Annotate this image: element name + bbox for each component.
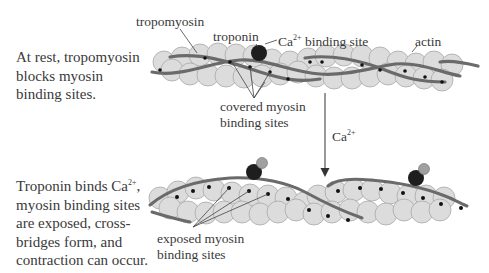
rest-description-line: At rest, tropomyosin [16,48,140,67]
binding-site-text: binding site [302,34,369,49]
active-description-line: myosin binding sites [16,196,148,215]
rest-description-line: blocks myosin [16,67,140,86]
active-description: Troponin binds Ca2+, myosin binding site… [16,177,148,270]
label-ca-binding-site: Ca2+ binding site [278,34,368,50]
covered-line: covered myosin [220,99,306,115]
ca-charge: 2+ [347,128,356,137]
ca-text: Ca [332,129,347,144]
troponin-binds-text: Troponin binds Ca [16,178,128,194]
label-troponin: troponin [213,29,259,45]
ca-charge: 2+ [293,33,302,42]
covered-line: binding sites [220,115,306,131]
calcium-ion-1 [257,158,268,169]
label-ca-arrow: Ca2+ [332,129,356,145]
active-description-line: are exposed, cross- [16,214,148,233]
exposed-line: binding sites [157,247,244,263]
rest-description-line: binding sites. [16,85,140,104]
label-covered-sites: covered myosin binding sites [220,99,306,131]
label-exposed-sites: exposed myosin binding sites [157,231,244,263]
rest-description: At rest, tropomyosin blocks myosin bindi… [16,48,140,104]
active-description-line: Troponin binds Ca2+, [16,177,148,196]
ca-arrow [321,93,330,177]
label-actin: actin [415,34,441,50]
calcium-ion-2 [419,164,430,175]
actin-filament-rest [152,43,478,91]
actin-filament-active [149,158,467,226]
label-tropomyosin: tropomyosin [136,14,204,30]
comma: , [136,178,140,194]
troponin-rest [251,45,267,61]
exposed-line: exposed myosin [157,231,244,247]
active-description-line: bridges form, and [16,233,148,252]
active-description-line: contraction can occur. [16,251,148,270]
ca-text: Ca [278,34,293,49]
